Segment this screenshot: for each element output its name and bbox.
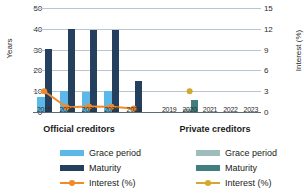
bar-maturity bbox=[68, 29, 75, 112]
legend-label: Interest (%) bbox=[225, 178, 272, 188]
bar-group bbox=[126, 8, 142, 112]
bar-group bbox=[36, 8, 52, 112]
legend-swatch-icon bbox=[60, 165, 84, 171]
legend-label: Maturity bbox=[225, 163, 257, 173]
y-tick-right: 3 bbox=[264, 87, 282, 96]
legend-item[interactable]: Grace period bbox=[196, 145, 277, 160]
legend-swatch-icon bbox=[196, 150, 220, 156]
legend-item[interactable]: Maturity bbox=[60, 160, 141, 175]
bar-maturity bbox=[112, 30, 119, 112]
legend-official-creditors: Grace periodMaturityInterest (%) bbox=[60, 145, 141, 190]
bar-group bbox=[103, 8, 119, 112]
y-axis-right-label: Interest (%) bbox=[294, 30, 303, 71]
legend-label: Interest (%) bbox=[89, 178, 136, 188]
bar-group bbox=[182, 8, 198, 112]
legend-item[interactable]: Maturity bbox=[196, 160, 277, 175]
y-tick-right: 12 bbox=[264, 24, 282, 33]
bar-group bbox=[59, 8, 75, 112]
panel-official-creditors bbox=[33, 8, 145, 112]
bar-group bbox=[222, 8, 238, 112]
legend-item[interactable]: Interest (%) bbox=[60, 175, 141, 190]
legend-line-icon bbox=[60, 178, 84, 187]
bar-group bbox=[243, 8, 259, 112]
legend-label: Grace period bbox=[225, 148, 277, 158]
caption-private-creditors: Private creditors bbox=[160, 124, 270, 134]
caption-official-creditors: Official creditors bbox=[24, 124, 134, 134]
y-tick-right: 15 bbox=[264, 4, 282, 13]
bar-group bbox=[81, 8, 97, 112]
plot-area bbox=[33, 8, 261, 112]
x-tick-label: 2023 bbox=[238, 106, 264, 113]
bar-group bbox=[161, 8, 177, 112]
panel-private-creditors bbox=[159, 8, 261, 112]
legend-private-creditors: Grace periodMaturityInterest (%) bbox=[196, 145, 277, 190]
y-axis-left-label: Years bbox=[5, 38, 14, 58]
legend-item[interactable]: Grace period bbox=[60, 145, 141, 160]
legend-item[interactable]: Interest (%) bbox=[196, 175, 277, 190]
legend-label: Maturity bbox=[89, 163, 121, 173]
legend-line-icon bbox=[196, 178, 220, 187]
bar-maturity bbox=[90, 30, 97, 112]
x-tick-label: 2023 bbox=[121, 106, 147, 113]
legend-swatch-icon bbox=[60, 150, 84, 156]
chart-container: Years Interest (%) 01020304050 03691215 … bbox=[0, 0, 304, 193]
y-tick-right: 6 bbox=[264, 66, 282, 75]
bar-group bbox=[202, 8, 218, 112]
y-tick-right: 9 bbox=[264, 45, 282, 54]
legend-label: Grace period bbox=[89, 148, 141, 158]
bar-maturity bbox=[45, 49, 52, 112]
legend-swatch-icon bbox=[196, 165, 220, 171]
y-tick-right: 0 bbox=[264, 108, 282, 117]
